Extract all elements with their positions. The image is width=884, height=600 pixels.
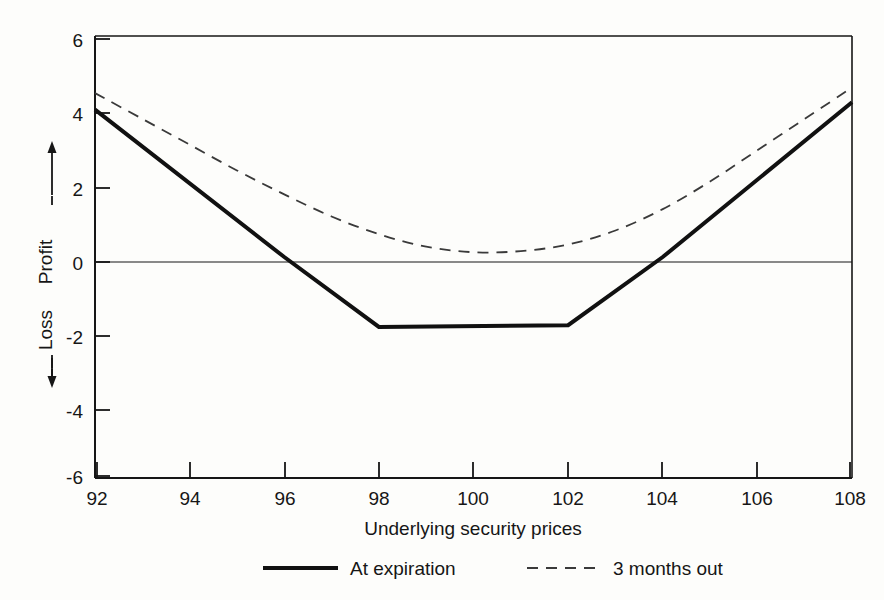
x-tick-label: 92 — [86, 488, 107, 509]
x-axis-ticks — [97, 462, 850, 478]
series-line-3-months-out — [95, 88, 852, 253]
legend-label-3-months-out: 3 months out — [613, 558, 724, 579]
y-tick-label: -4 — [66, 401, 83, 422]
y-axis-ticks — [95, 39, 110, 476]
y-tick-label: 6 — [72, 30, 83, 51]
x-tick-label: 98 — [368, 488, 389, 509]
axis-frame — [95, 36, 852, 478]
x-tick-label: 106 — [741, 488, 773, 509]
y-tick-label: 4 — [72, 104, 83, 125]
profit-up-arrow-icon — [48, 141, 57, 205]
legend-label-at-expiration: At expiration — [350, 558, 456, 579]
chart-canvas: 6 4 2 0 -2 -4 -6 92 94 96 98 100 102 104… — [0, 0, 884, 600]
loss-down-arrow-icon — [48, 355, 57, 388]
y-axis-label-loss: Loss — [35, 310, 56, 350]
x-tick-label: 96 — [274, 488, 295, 509]
x-tick-label: 104 — [646, 488, 678, 509]
x-tick-label: 94 — [179, 488, 201, 509]
chart-legend: At expiration 3 months out — [263, 558, 724, 579]
x-axis-title: Underlying security prices — [364, 518, 582, 539]
chart-page: 6 4 2 0 -2 -4 -6 92 94 96 98 100 102 104… — [0, 0, 884, 600]
series-line-at-expiration — [95, 102, 852, 327]
y-tick-label: 2 — [72, 179, 83, 200]
series-layer — [95, 88, 852, 327]
y-axis-label-profit: Profit — [35, 239, 56, 284]
y-tick-label: -2 — [66, 327, 83, 348]
y-tick-label: -6 — [66, 467, 83, 488]
y-tick-label: 0 — [72, 253, 83, 274]
x-tick-label: 108 — [834, 488, 866, 509]
x-tick-label: 100 — [457, 488, 489, 509]
x-tick-label: 102 — [552, 488, 584, 509]
y-tick-labels: 6 4 2 0 -2 -4 -6 — [66, 30, 83, 488]
x-tick-labels: 92 94 96 98 100 102 104 106 108 — [86, 488, 865, 509]
y-axis-title-group: Profit Loss — [35, 141, 57, 388]
profit-loss-chart-figure: 6 4 2 0 -2 -4 -6 92 94 96 98 100 102 104… — [0, 0, 884, 600]
